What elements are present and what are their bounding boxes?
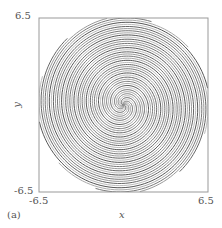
x-axis-label: x (119, 210, 125, 220)
x-tick-max: 6.5 (198, 196, 214, 206)
plot-area (0, 0, 222, 228)
x-tick-min: -6.5 (29, 196, 48, 206)
y-axis-label: y (12, 102, 22, 108)
panel-label: (a) (7, 210, 21, 220)
y-tick-max: 6.5 (15, 11, 31, 21)
spiral-streamline-chart: 6.5 -6.5 -6.5 6.5 y x (a) (0, 0, 222, 228)
